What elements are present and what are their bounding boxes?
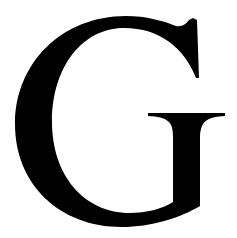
- letter-g-glyph: G: [0, 0, 237, 238]
- letter-g-icon: [0, 0, 237, 238]
